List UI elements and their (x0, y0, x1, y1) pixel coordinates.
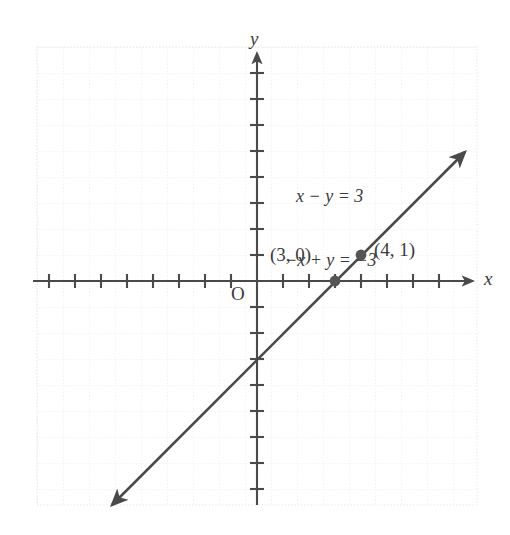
y-axis-label: y (250, 28, 258, 50)
graph-canvas (0, 0, 510, 535)
point-label-3-0: (3, 0) (270, 244, 311, 266)
coordinate-plane-figure: x y O x − y = 3 −x + y = −3 (3, 0) (4, 1… (0, 0, 510, 535)
point-label-4-1: (4, 1) (374, 239, 415, 261)
origin-label: O (231, 283, 245, 305)
equation-line-1: x − y = 3 (296, 186, 377, 207)
x-axis-label: x (484, 268, 492, 290)
equation-annotation: x − y = 3 −x + y = −3 (296, 144, 377, 314)
